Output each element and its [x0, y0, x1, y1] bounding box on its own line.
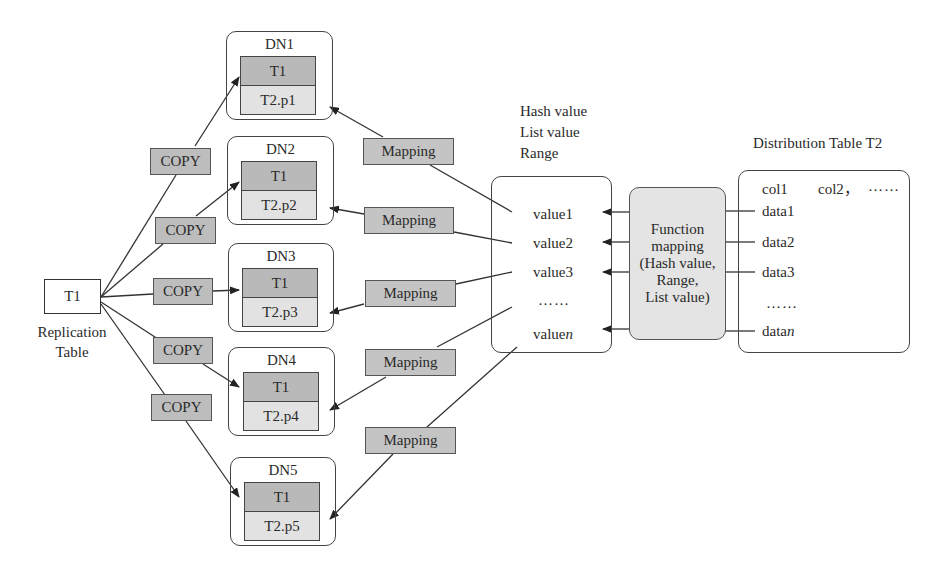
value-2: value2 [533, 235, 573, 252]
data-node-dn1: DN1 T1 T2.p1 [226, 31, 333, 120]
dn-t2-partition-cell: T2.p1 [240, 86, 316, 115]
dist-col2-header: col2， [818, 181, 859, 198]
value-1: value1 [533, 206, 573, 223]
replication-caption-line1: Replication [37, 324, 106, 341]
copy-text: COPY [163, 342, 203, 359]
mapping-text: Mapping [383, 285, 437, 302]
value-header-hash: Hash value [520, 103, 587, 120]
copy-label-dn4: COPY [153, 337, 213, 364]
mapping-label-dn3: Mapping [365, 280, 456, 307]
copy-label-dn2: COPY [155, 217, 216, 244]
copy-text: COPY [161, 399, 201, 416]
dn-t1-cell: T1 [243, 372, 319, 402]
value-n-prefix: value [533, 326, 565, 342]
mapping-label-dn1: Mapping [363, 138, 454, 165]
dn-t1-cell: T1 [240, 56, 316, 86]
copy-text: COPY [160, 153, 200, 170]
dist-data-2: data2 [762, 234, 794, 251]
value-ellipsis: …… [538, 292, 570, 309]
copy-text: COPY [163, 283, 203, 300]
data-node-dn4: DN4 T1 T2.p4 [228, 347, 335, 436]
function-mapping-line3: (Hash value, [630, 255, 725, 272]
copy-label-dn3: COPY [153, 278, 213, 305]
mapping-text: Mapping [382, 212, 436, 229]
replication-caption-line2: Table [55, 344, 88, 361]
copy-label-dn1: COPY [150, 148, 211, 175]
dn-t2-partition-cell: T2.p4 [243, 402, 319, 431]
dn-title: DN5 [231, 462, 335, 479]
dn-title: DN2 [228, 141, 333, 158]
value-header-range: Range [520, 145, 558, 162]
dn-t1-cell: T1 [241, 161, 317, 191]
value-n-suffix: n [565, 326, 573, 342]
mapping-label-dn4: Mapping [365, 349, 456, 376]
dist-col-more: …… [868, 178, 900, 195]
dist-data-3: data3 [762, 264, 794, 281]
value-header-list: List value [520, 124, 580, 141]
mapping-label-dn5: Mapping [365, 427, 456, 454]
value-3: value3 [533, 264, 573, 281]
dn-title: DN3 [229, 248, 333, 265]
function-mapping-line1: Function [630, 221, 725, 238]
distribution-table-title: Distribution Table T2 [753, 135, 882, 152]
data-node-dn2: DN2 T1 T2.p2 [227, 136, 334, 225]
dn-title: DN1 [227, 36, 332, 53]
mapping-label-dn2: Mapping [364, 207, 454, 234]
function-mapping-box: Function mapping (Hash value, Range, Lis… [629, 187, 726, 340]
mapping-text: Mapping [383, 432, 437, 449]
dn-t1-cell: T1 [244, 482, 320, 512]
function-mapping-line2: mapping [630, 238, 725, 255]
value-n: valuen [533, 326, 573, 343]
dn-title: DN4 [229, 352, 334, 369]
dist-data-n-prefix: data [762, 323, 787, 339]
dn-t2-partition-cell: T2.p5 [244, 512, 320, 541]
mapping-text: Mapping [383, 354, 437, 371]
mapping-text: Mapping [381, 143, 435, 160]
replication-table-label: T1 [64, 288, 81, 305]
dist-data-n-suffix: n [787, 323, 795, 339]
function-mapping-line4: Range, [630, 272, 725, 289]
dist-col1-header: col1 [762, 181, 788, 198]
dn-t1-cell: T1 [242, 268, 318, 298]
copy-text: COPY [165, 222, 205, 239]
function-mapping-line5: List value) [630, 289, 725, 306]
dist-data-1: data1 [762, 203, 794, 220]
dn-t2-partition-cell: T2.p2 [241, 191, 317, 220]
copy-label-dn5: COPY [151, 394, 212, 421]
dist-data-n: datan [762, 323, 794, 340]
replication-table-t1: T1 [44, 279, 101, 314]
dn-t2-partition-cell: T2.p3 [242, 298, 318, 327]
data-node-dn5: DN5 T1 T2.p5 [230, 457, 336, 546]
dist-data-ellipsis: …… [766, 295, 798, 312]
data-node-dn3: DN3 T1 T2.p3 [228, 243, 334, 332]
